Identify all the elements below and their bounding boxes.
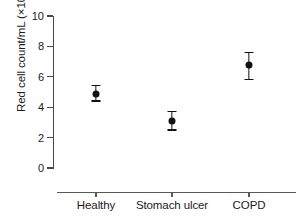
y-axis-tick [47,107,53,108]
y-axis-tick [47,167,53,168]
x-axis-tick-label: Stomach ulcer [136,199,208,211]
y-axis-tick-label: 0 [22,162,44,174]
y-axis-tick [47,15,53,16]
data-point-marker [93,91,100,98]
x-axis-tick-label: Healthy [77,199,115,211]
y-axis-tick-label: 8 [22,40,44,52]
x-axis-tick-label: COPD [233,199,266,211]
chart-figure: Red cell count/mL (×109) 0246810 Healthy… [0,0,302,221]
error-bar-cap-lower [245,79,254,80]
y-axis-tick-labels: 0246810 [20,0,44,221]
y-axis-tick-label: 4 [22,101,44,113]
error-bar-cap-lower [92,100,101,101]
y-axis-tick [47,46,53,47]
error-bar-cap-upper [245,52,254,53]
data-point-group [239,50,259,81]
data-point-group [86,83,106,102]
data-point-marker [246,61,253,68]
y-axis-tick-label: 6 [22,71,44,83]
x-axis-tick [171,192,172,197]
error-bar-cap-lower [168,129,177,130]
x-axis-line [57,192,296,193]
error-bar-cap-upper [92,85,101,86]
y-axis-tick [47,137,53,138]
y-axis-tick [47,76,53,77]
x-axis-tick [95,192,96,197]
error-bar-cap-upper [168,111,177,112]
data-point-group [162,109,182,131]
data-point-marker [169,117,176,124]
y-axis-tick-label: 2 [22,132,44,144]
x-axis-tick [248,192,249,197]
y-axis-tick-label: 10 [22,10,44,22]
y-axis-line [53,16,54,169]
